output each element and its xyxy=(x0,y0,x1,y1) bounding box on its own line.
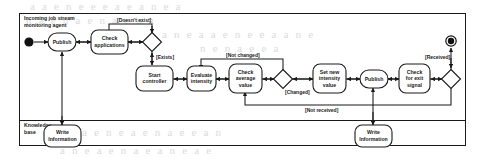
guard-label-not-received: [Not received] xyxy=(305,107,339,113)
action-node-set-new-intensity-value-label-line2: intensity xyxy=(319,75,340,81)
swimlane-label-agent-line2: monitoring agent xyxy=(24,22,67,28)
swimlane-label-agent-line1: Incoming job stream xyxy=(24,15,75,21)
guard-label-doesnt-exist: [Doesn't exist] xyxy=(117,17,152,23)
action-node-evaluate-intensity-label-line1: Evaluate xyxy=(191,72,212,78)
action-node-set-new-intensity-value-label-line3: value xyxy=(323,82,336,88)
action-node-write-information-2-label-line1: Write xyxy=(367,129,380,135)
action-node-publish-1[interactable]: Publish xyxy=(48,33,76,51)
action-node-check-for-exit-signal-label-line3: signal xyxy=(407,82,423,88)
final-node xyxy=(446,36,456,46)
action-node-publish-2[interactable]: Publish xyxy=(360,70,388,88)
guard-label-changed: [Changed] xyxy=(285,89,310,95)
action-node-write-information-2-label-line2: Information xyxy=(359,136,388,142)
action-node-check-for-exit-signal-label-line1: Check xyxy=(407,69,423,75)
action-node-publish-2-label: Publish xyxy=(365,76,384,82)
action-node-set-new-intensity-value-label-line1: Set new xyxy=(320,69,341,75)
decision-node-3[interactable] xyxy=(442,70,461,89)
action-node-evaluate-intensity[interactable]: Evaluate intensity xyxy=(187,66,216,91)
uml-activity-diagram: Incoming job stream monitoring agent Kno… xyxy=(0,0,484,159)
action-node-write-information-2[interactable]: Write Information xyxy=(355,125,392,147)
guard-label-not-changed: [Not changed] xyxy=(226,52,260,58)
decision-node-2[interactable] xyxy=(274,70,293,89)
action-node-check-applications[interactable]: Check applications xyxy=(91,30,128,54)
action-node-check-average-value-label-line3: value xyxy=(239,82,252,88)
action-node-check-applications-label-line2: applications xyxy=(94,42,124,48)
initial-node xyxy=(24,37,33,46)
activity-diagram-page: a a e n e e e a e a n e a n a e n a e n … xyxy=(0,0,484,159)
action-node-set-new-intensity-value[interactable]: Set new intensity value xyxy=(313,64,346,93)
action-node-check-average-value[interactable]: Check average value xyxy=(229,64,262,93)
action-node-evaluate-intensity-label-line2: intensity xyxy=(191,78,212,84)
action-node-write-information-1[interactable]: Write Information xyxy=(44,125,81,147)
action-node-start-controller[interactable]: Start controller xyxy=(136,66,173,91)
action-node-check-average-value-label-line1: Check xyxy=(238,69,254,75)
swimlane-label-kb-line2: base xyxy=(24,129,36,135)
action-node-start-controller-label-line1: Start xyxy=(149,72,161,78)
guard-label-received: [Received] xyxy=(425,54,451,60)
guard-label-exists: [Exists] xyxy=(156,54,174,60)
action-node-check-average-value-label-line2: average xyxy=(236,75,256,81)
action-node-write-information-1-label-line2: Information xyxy=(48,136,77,142)
action-node-check-for-exit-signal[interactable]: Check for exit signal xyxy=(399,64,430,93)
decision-node-1[interactable] xyxy=(143,33,162,52)
action-node-write-information-1-label-line1: Write xyxy=(56,129,69,135)
action-node-check-for-exit-signal-label-line2: for exit xyxy=(406,75,424,81)
action-node-check-applications-label-line1: Check xyxy=(102,35,118,41)
action-node-start-controller-label-line2: controller xyxy=(143,78,167,84)
action-node-publish-1-label: Publish xyxy=(53,39,72,45)
